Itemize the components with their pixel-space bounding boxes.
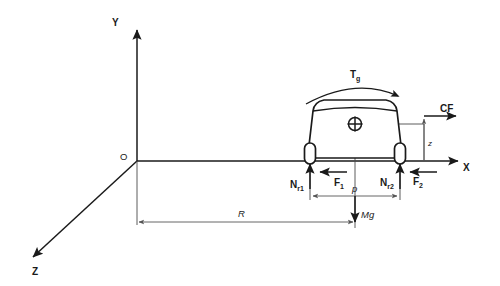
normal-right-label: Nr2: [380, 177, 394, 190]
wheel-left: [305, 143, 316, 164]
z-axis-label: Z: [32, 266, 38, 277]
diagram-canvas: Y X Z O: [0, 0, 500, 286]
normal-right-base: N: [380, 177, 387, 188]
radius-dimension-group: R: [139, 208, 353, 222]
cf-label: CF: [440, 103, 453, 114]
normal-left-sub: r1: [297, 185, 304, 192]
lateral-forces-group: F1 F2: [320, 172, 437, 190]
vehicle-force-diagram: Y X Z O: [0, 0, 500, 286]
centrifugal-force-group: CF: [424, 103, 456, 116]
track-width-label: p: [351, 183, 357, 194]
y-axis-label: Y: [112, 17, 119, 28]
normal-forces-group: Nr1 Nr2: [290, 164, 400, 192]
normal-left-base: N: [290, 179, 297, 190]
friction-left-label: F1: [334, 177, 344, 190]
z-axis-line: [33, 161, 137, 257]
torque-label-sub: g: [356, 75, 360, 83]
normal-left-label: Nr1: [290, 179, 304, 192]
radius-label: R: [238, 208, 245, 219]
z-dimension-group: z: [424, 119, 432, 161]
origin-label: O: [120, 151, 127, 162]
z-dimension-label: z: [427, 139, 432, 148]
friction-left-sub: 1: [340, 183, 344, 190]
weight-force-group: Mg: [355, 196, 375, 222]
wheel-right: [395, 143, 406, 164]
friction-right-label: F2: [413, 176, 423, 189]
friction-right-sub: 2: [419, 182, 423, 189]
torque-label: Tg: [350, 69, 360, 83]
normal-right-sub: r2: [387, 183, 394, 190]
x-axis-label: X: [463, 162, 470, 173]
weight-label: Mg: [361, 209, 375, 220]
torque-arc-group: Tg: [306, 69, 398, 104]
